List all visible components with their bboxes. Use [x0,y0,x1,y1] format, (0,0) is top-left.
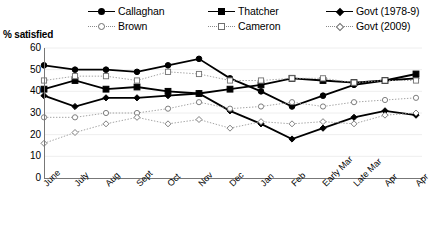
y-tick-label: 60 [21,43,41,53]
data-point [351,121,357,127]
data-point [289,136,295,142]
series-govt-1978-9 [41,90,419,142]
data-point [320,125,326,131]
legend-item-govt-1978-9: Govt (1978-9) [326,4,419,19]
data-point [320,76,325,81]
y-tick-label: 30 [21,108,41,118]
legend-label: Govt (1978-9) [356,6,419,17]
legend-marker-f-circle-icon [88,6,115,17]
data-point [196,56,202,62]
data-point [320,119,326,125]
data-point [196,117,202,123]
y-axis-title: % satisfied [3,29,53,40]
data-point [258,78,263,83]
data-point [320,93,326,99]
data-point [227,106,232,111]
data-point [413,95,418,100]
data-point [227,125,233,131]
legend-item-brown: Brown [88,19,208,34]
satisfaction-line-chart: CallaghanThatcherGovt (1978-9)BrownCamer… [0,0,431,228]
y-tick-label: 0 [21,173,41,183]
data-point [165,121,171,127]
data-point [196,100,201,105]
data-point [351,100,356,105]
legend-marker-o-diamond-icon [326,21,353,32]
data-point [165,106,170,111]
legend-marker-o-square-icon [208,21,235,32]
y-axis-line [44,48,45,178]
data-point [413,78,418,83]
legend-label: Thatcher [238,6,279,17]
data-point [289,121,295,127]
y-tick-label: 50 [21,65,41,75]
y-tick-label: 20 [21,130,41,140]
data-point [134,84,140,90]
data-point [382,78,387,83]
data-point [134,114,140,120]
legend-label: Callaghan [118,6,164,17]
data-point [103,110,108,115]
data-point [72,115,77,120]
legend-row: CallaghanThatcherGovt (1978-9) [88,4,428,19]
data-point [351,80,356,85]
data-point [289,100,294,105]
data-point [72,103,78,109]
data-point [227,78,232,83]
series-layer [44,48,422,178]
data-point [320,104,325,109]
legend-label: Brown [118,21,147,32]
data-point [103,121,109,127]
data-point [103,67,109,73]
data-point [227,86,233,92]
legend-item-thatcher: Thatcher [208,4,326,19]
data-point [134,95,140,101]
data-point [289,76,294,81]
data-point [134,69,140,75]
data-point [258,104,263,109]
y-tick-label: 40 [21,86,41,96]
data-point [134,78,139,83]
legend-marker-o-circle-icon [88,21,115,32]
data-point [196,71,201,76]
legend-label: Cameron [238,21,281,32]
data-point [72,130,78,136]
data-point [382,112,388,118]
y-axis-ticks: 0102030405060 [17,48,41,178]
data-point [165,69,170,74]
data-point [103,86,109,92]
legend-item-govt-2009: Govt (2009) [326,19,410,34]
legend-row: BrownCameronGovt (2009) [88,19,428,34]
data-point [103,74,108,79]
y-tick-label: 10 [21,151,41,161]
data-point [351,114,357,120]
chart-legend: CallaghanThatcherGovt (1978-9)BrownCamer… [88,4,428,34]
data-point [382,97,387,102]
data-point [258,89,264,95]
plot-area [44,48,422,178]
legend-marker-f-square-icon [208,6,235,17]
x-axis-ticks: JuneJulyAugSeptOctNovDecJanFebEarly MarL… [44,182,430,226]
legend-item-callaghan: Callaghan [88,4,208,19]
data-point [413,71,419,77]
data-point [165,63,171,69]
data-point [103,95,109,101]
data-point [72,74,77,79]
legend-item-cameron: Cameron [208,19,326,34]
data-point [72,67,78,73]
legend-marker-f-diamond-icon [326,6,353,17]
legend-label: Govt (2009) [356,21,410,32]
